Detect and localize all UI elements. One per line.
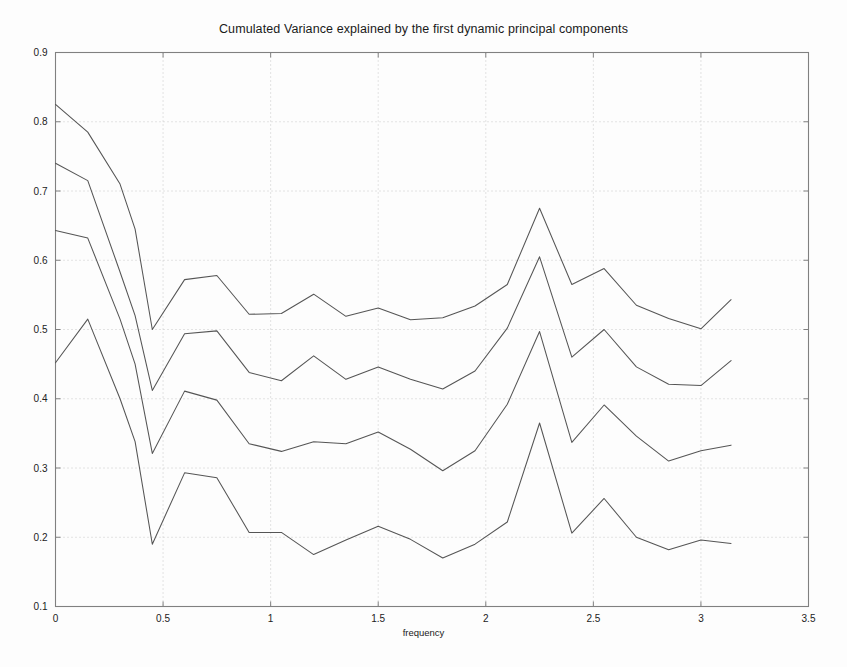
svg-text:0.7: 0.7 [34, 186, 48, 197]
series-line [56, 104, 732, 329]
svg-text:2.5: 2.5 [586, 613, 600, 624]
svg-text:0.9: 0.9 [34, 47, 48, 58]
svg-text:0.1: 0.1 [34, 601, 48, 612]
svg-text:0.4: 0.4 [34, 393, 48, 404]
series-line [56, 230, 732, 470]
svg-text:0.5: 0.5 [156, 613, 170, 624]
svg-text:3.5: 3.5 [802, 613, 816, 624]
svg-text:1: 1 [268, 613, 274, 624]
svg-text:2: 2 [483, 613, 489, 624]
svg-text:0.2: 0.2 [34, 532, 48, 543]
svg-text:0.6: 0.6 [34, 255, 48, 266]
grid-lines [56, 53, 809, 607]
svg-text:0.8: 0.8 [34, 116, 48, 127]
svg-text:1.5: 1.5 [371, 613, 385, 624]
svg-text:0: 0 [53, 613, 59, 624]
svg-text:3: 3 [698, 613, 704, 624]
series-line [56, 163, 732, 390]
figure-canvas: Cumulated Variance explained by the firs… [0, 0, 847, 667]
svg-text:0.3: 0.3 [34, 463, 48, 474]
line-chart-plot: 00.511.522.533.50.10.20.30.40.50.60.70.8… [0, 0, 847, 667]
data-series-lines [56, 104, 732, 558]
x-axis-label: frequency [0, 627, 847, 638]
svg-text:0.5: 0.5 [34, 324, 48, 335]
series-line [56, 319, 732, 558]
